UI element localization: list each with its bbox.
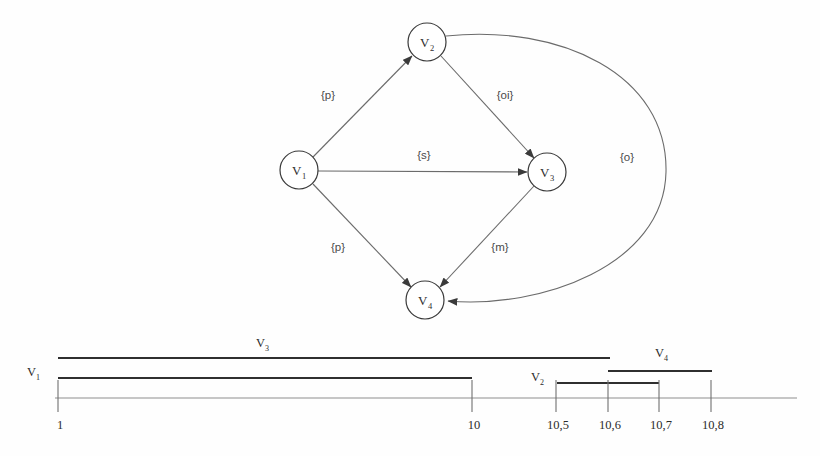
edge-v2-v3 (441, 56, 534, 158)
node-v2[interactable]: V 2 (408, 23, 446, 61)
edge-v1-v2 (313, 56, 412, 157)
edge-v1-v4 (313, 184, 411, 287)
svg-text:4: 4 (664, 354, 668, 363)
tick-label-10-6: 10,6 (599, 418, 621, 432)
interval-label-v1: V 1 (27, 365, 40, 382)
svg-text:1: 1 (36, 373, 40, 382)
graph-edges (313, 34, 666, 302)
edge-v1-v3 (318, 171, 527, 172)
tick-label-10-7: 10,7 (650, 418, 672, 432)
node-v3[interactable]: V 3 (528, 153, 566, 191)
timeline-axis (55, 380, 797, 412)
edge-label-v2-v3: {oi} (497, 89, 514, 101)
interval-label-v2: V 2 (531, 370, 544, 387)
node-v4-label: V (418, 293, 428, 308)
interval-label-v4: V 4 (655, 346, 668, 363)
figure-container: V 1 V 2 V 3 V 4 {p} {oi} {s} (0, 0, 820, 456)
svg-text:V: V (27, 365, 36, 379)
node-v1[interactable]: V 1 (280, 151, 318, 189)
edge-v3-v4 (440, 186, 534, 287)
node-v4[interactable]: V 4 (406, 281, 444, 319)
interval-graph-figure: V 1 V 2 V 3 V 4 {p} {oi} {s} (0, 0, 820, 456)
svg-text:2: 2 (540, 378, 544, 387)
timeline-tick-labels: 1 10 10,5 10,6 10,7 10,8 (57, 418, 724, 432)
node-v3-label: V (540, 165, 550, 180)
edge-label-v3-v4: {m} (491, 241, 508, 253)
interval-label-v3: V 3 (256, 336, 269, 353)
node-v3-subscript: 3 (550, 173, 554, 183)
edge-label-v1-v2: {p} (321, 89, 335, 101)
svg-text:V: V (655, 346, 664, 360)
timeline-intervals (58, 358, 712, 383)
edge-label-v1-v3: {s} (417, 149, 431, 161)
tick-label-10-5: 10,5 (547, 418, 569, 432)
node-v1-label: V (292, 163, 302, 178)
timeline-interval-labels: V 3 V 4 V 1 V 2 (27, 336, 668, 387)
svg-text:V: V (256, 336, 265, 350)
tick-label-1: 1 (57, 418, 63, 432)
tick-label-10: 10 (468, 418, 481, 432)
svg-text:V: V (531, 370, 540, 384)
edge-label-v1-v4: {p} (331, 241, 345, 253)
node-v2-label: V (420, 35, 430, 50)
svg-text:3: 3 (265, 344, 269, 353)
node-v2-subscript: 2 (430, 43, 434, 53)
tick-label-10-8: 10,8 (702, 418, 724, 432)
edge-label-v2-v4: {o} (620, 151, 634, 163)
node-v1-subscript: 1 (302, 171, 306, 181)
